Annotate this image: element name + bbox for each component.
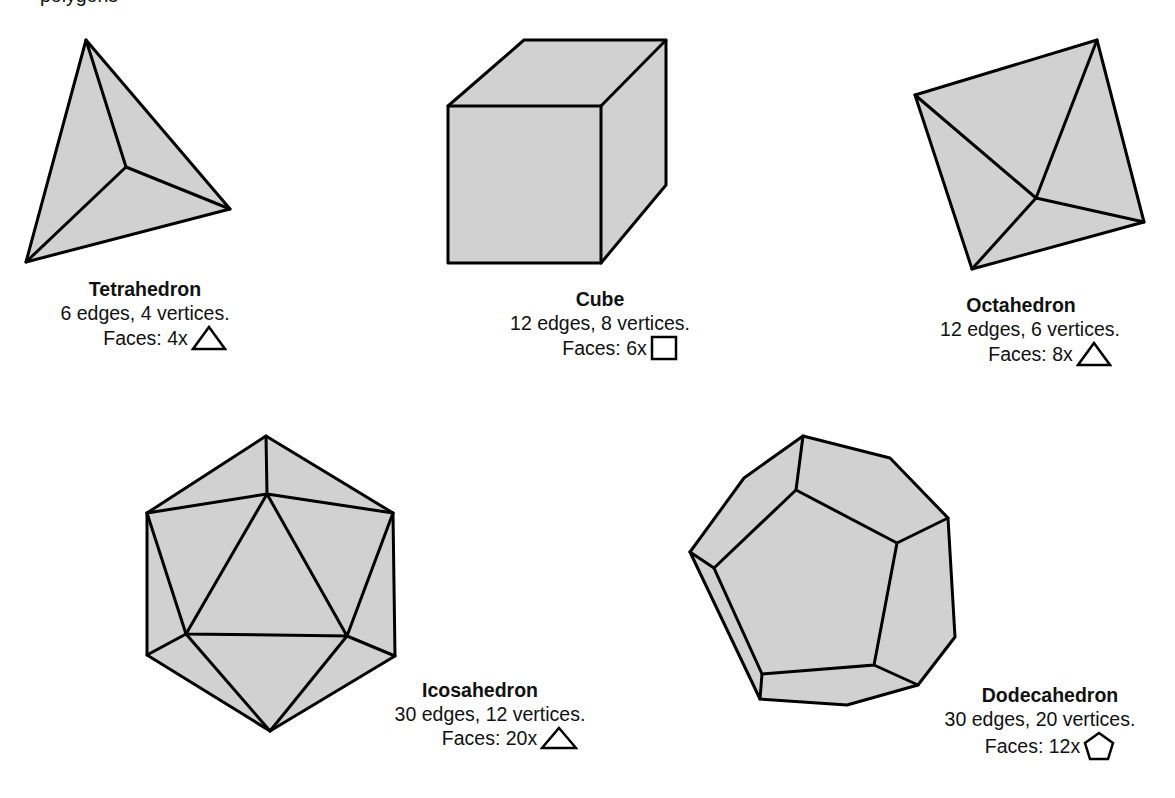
polyhedron-stats: 30 edges, 12 vertices. — [370, 702, 610, 726]
dodecahedron-caption: Dodecahedron 30 edges, 20 vertices. Face… — [915, 683, 1165, 761]
polyhedron-name: Tetrahedron — [20, 277, 270, 301]
pentagon-icon — [1083, 731, 1115, 761]
faces-line: Faces: 20x — [442, 726, 578, 750]
polyhedron-name: Dodecahedron — [935, 683, 1165, 707]
polyhedron-name: Cube — [460, 287, 740, 311]
tetrahedron-caption: Tetrahedron 6 edges, 4 vertices. Faces: … — [20, 277, 270, 351]
faces-label: Faces: 8x — [988, 342, 1073, 366]
polyhedron-stats: 30 edges, 20 vertices. — [915, 707, 1165, 731]
faces-line: Faces: 8x — [988, 341, 1112, 367]
faces-label: Faces: 20x — [442, 726, 537, 750]
triangle-icon — [540, 726, 578, 750]
tetrahedron-figure — [26, 40, 230, 262]
octahedron-figure — [915, 40, 1144, 269]
polyhedron-stats: 6 edges, 4 vertices. — [20, 301, 270, 325]
faces-line: Faces: 12x — [985, 731, 1115, 761]
faces-label: Faces: 12x — [985, 734, 1080, 758]
polyhedron-name: Icosahedron — [370, 678, 590, 702]
octahedron-caption: Octahedron 12 edges, 6 vertices. Faces: … — [890, 293, 1170, 367]
cube-figure — [448, 40, 666, 263]
faces-label: Faces: 4x — [103, 326, 188, 350]
dodecahedron-figure — [690, 436, 955, 705]
faces-label: Faces: 6x — [562, 336, 647, 360]
triangle-icon — [1076, 341, 1112, 367]
polyhedron-stats: 12 edges, 8 vertices. — [460, 311, 740, 335]
icosahedron-figure — [147, 436, 395, 731]
triangle-icon — [191, 325, 227, 351]
faces-line: Faces: 6x — [562, 335, 678, 361]
faces-line: Faces: 4x — [103, 325, 227, 351]
cube-caption: Cube 12 edges, 8 vertices. Faces: 6x — [460, 287, 740, 361]
polyhedron-name: Octahedron — [890, 293, 1152, 317]
square-icon — [650, 335, 678, 361]
polyhedron-stats: 12 edges, 6 vertices. — [890, 317, 1170, 341]
icosahedron-caption: Icosahedron 30 edges, 12 vertices. Faces… — [370, 678, 610, 750]
